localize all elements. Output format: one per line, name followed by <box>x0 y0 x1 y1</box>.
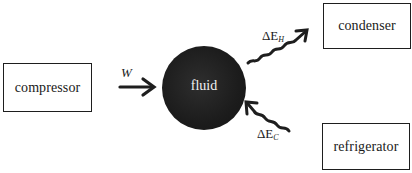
fluid-circle: fluid <box>162 46 246 130</box>
condenser-label: condenser <box>338 18 396 34</box>
heat-out-label: ΔEH <box>262 28 284 44</box>
work-arrow-icon <box>120 79 154 95</box>
subscript-c: C <box>273 133 278 142</box>
fluid-label: fluid <box>191 78 217 94</box>
refrigerator-box: refrigerator <box>322 123 410 170</box>
compressor-label: compressor <box>15 80 81 96</box>
heat-in-label: ΔEC <box>257 126 279 142</box>
delta-e-symbol: ΔE <box>257 126 273 141</box>
refrigerator-label: refrigerator <box>334 139 399 155</box>
condenser-box: condenser <box>323 3 411 49</box>
work-symbol: W <box>121 65 132 80</box>
delta-e-symbol: ΔE <box>262 28 278 43</box>
work-label: W <box>121 65 132 81</box>
compressor-box: compressor <box>3 63 92 112</box>
subscript-h: H <box>278 35 284 44</box>
